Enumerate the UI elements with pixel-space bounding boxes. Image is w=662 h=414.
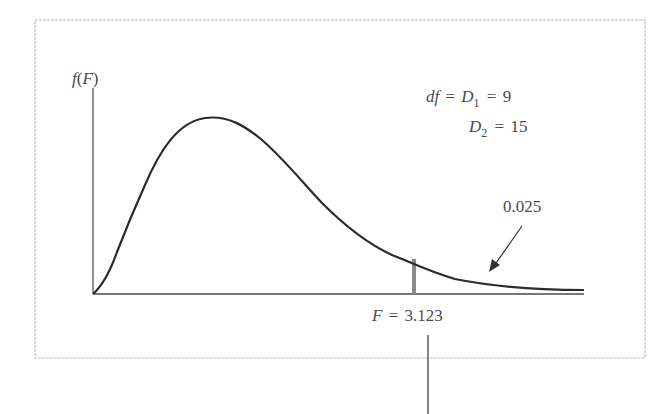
- df-d1-label: df = D1 = 9: [426, 87, 511, 111]
- critical-value-label: F = 3.123: [371, 306, 443, 325]
- tail-arrow-shaft: [494, 226, 522, 266]
- f-distribution-chart: f(F) df = D1 = 9 D2 = 15 0.025 F = 3.123: [0, 0, 662, 414]
- chart-frame: [35, 20, 645, 358]
- tail-arrow-icon: [489, 259, 500, 272]
- y-axis-label: f(F): [72, 69, 98, 88]
- tail-area-label: 0.025: [503, 197, 541, 216]
- d2-label: D2 = 15: [468, 117, 527, 141]
